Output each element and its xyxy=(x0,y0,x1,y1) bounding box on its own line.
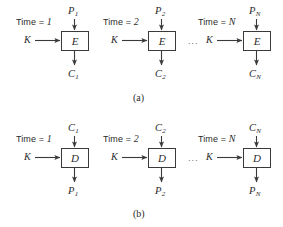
encrypt-box-glyph: E xyxy=(244,32,270,50)
key-label-a2: K xyxy=(111,35,118,45)
input-label-b2: C2 xyxy=(155,123,166,134)
decrypt-box-b1: D xyxy=(61,148,89,168)
input-label-aN: PN xyxy=(249,6,260,17)
key-label-b2: K xyxy=(111,152,118,162)
time-label-aN: Time = N xyxy=(198,17,235,27)
time-label-bN: Time = N xyxy=(198,134,235,144)
figure-canvas: Time = 1 P1 K E C1 Time = 2 P2 K E C2 ..… xyxy=(0,0,283,227)
decrypt-box-glyph: D xyxy=(244,149,270,167)
encrypt-box-aN: E xyxy=(243,31,271,51)
key-label-b1: K xyxy=(24,152,31,162)
panel-caption-b: (b) xyxy=(133,209,145,219)
time-label-a1: Time = 1 xyxy=(16,17,52,27)
key-label-aN: K xyxy=(206,35,213,45)
input-label-b1: C1 xyxy=(68,123,79,134)
time-label-a2: Time = 2 xyxy=(103,17,139,27)
decrypt-box-bN: D xyxy=(243,148,271,168)
connector-lines xyxy=(0,0,283,227)
time-label-b1: Time = 1 xyxy=(16,134,52,144)
output-label-b1: P1 xyxy=(68,186,78,197)
input-label-a2: P2 xyxy=(155,6,165,17)
encrypt-box-glyph: E xyxy=(149,32,175,50)
output-label-a1: C1 xyxy=(68,69,79,80)
decrypt-box-b2: D xyxy=(148,148,176,168)
input-label-a1: P1 xyxy=(68,6,78,17)
decrypt-box-glyph: D xyxy=(62,149,88,167)
key-label-a1: K xyxy=(24,35,31,45)
key-label-bN: K xyxy=(206,152,213,162)
input-label-bN: CN xyxy=(249,123,261,134)
output-label-a2: C2 xyxy=(155,69,166,80)
encrypt-box-a1: E xyxy=(61,31,89,51)
encrypt-box-glyph: E xyxy=(62,32,88,50)
time-label-b2: Time = 2 xyxy=(103,134,139,144)
output-label-b2: P2 xyxy=(155,186,165,197)
decrypt-box-glyph: D xyxy=(149,149,175,167)
encrypt-box-a2: E xyxy=(148,31,176,51)
ellipsis-b: ... xyxy=(188,154,199,163)
output-label-bN: PN xyxy=(249,186,260,197)
panel-caption-a: (a) xyxy=(133,93,144,103)
ellipsis-a: ... xyxy=(188,37,199,46)
cipher-mode-figure: Time = 1 P1 K E C1 Time = 2 P2 K E C2 ..… xyxy=(0,0,283,227)
output-label-aN: CN xyxy=(249,69,261,80)
